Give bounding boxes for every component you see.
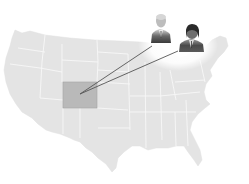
us-map-figure	[0, 0, 249, 184]
us-map	[0, 0, 249, 184]
